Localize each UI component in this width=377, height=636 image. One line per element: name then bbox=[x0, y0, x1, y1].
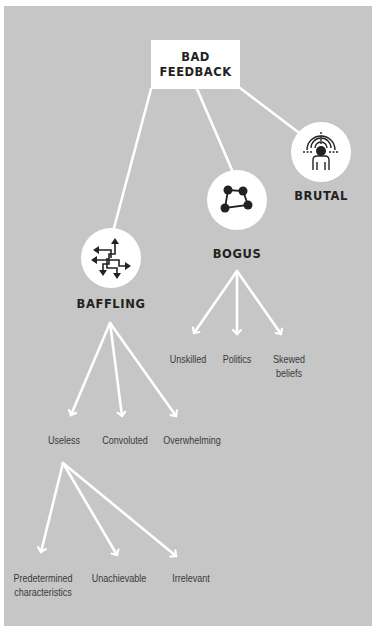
category-label-baffling: BAFFLING bbox=[77, 297, 146, 311]
figure-caption-cropped bbox=[140, 628, 250, 636]
baffling-node bbox=[81, 228, 141, 288]
connected-nodes-icon bbox=[217, 180, 257, 220]
root-node-bad-feedback: BAD FEEDBACK bbox=[151, 40, 240, 89]
leaf-politics: Politics bbox=[223, 352, 252, 366]
brutal-node bbox=[291, 122, 351, 182]
leaf-skewed-beliefs: Skewed beliefs bbox=[273, 352, 305, 380]
category-label-bogus: BOGUS bbox=[213, 247, 262, 261]
leaf-unskilled: Unskilled bbox=[170, 352, 207, 366]
leaf-irrelevant: Irrelevant bbox=[172, 571, 210, 585]
connector-lines bbox=[0, 0, 377, 636]
leaf-convoluted: Convoluted bbox=[102, 433, 148, 447]
leaf-overwhelming: Overwhelming bbox=[163, 433, 221, 447]
bogus-node bbox=[207, 170, 267, 230]
root-label-line1: BAD bbox=[181, 50, 210, 65]
root-label-line2: FEEDBACK bbox=[159, 65, 231, 80]
leaf-unachievable: Unachievable bbox=[92, 571, 147, 585]
category-label-brutal: BRUTAL bbox=[294, 189, 348, 203]
leaf-useless: Useless bbox=[48, 433, 80, 447]
target-person-icon bbox=[299, 130, 343, 174]
crossing-arrows-icon bbox=[89, 236, 133, 280]
leaf-predetermined-characteristics: Predetermined characteristics bbox=[13, 571, 72, 599]
